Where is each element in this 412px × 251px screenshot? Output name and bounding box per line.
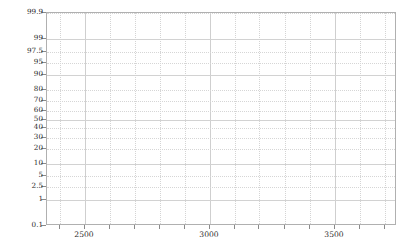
x-axis-tick bbox=[284, 225, 285, 229]
x-axis-tick bbox=[359, 225, 360, 229]
y-axis-tick-label: 40 bbox=[34, 123, 43, 131]
x-axis-tick bbox=[258, 225, 259, 229]
x-axis-tick bbox=[159, 225, 160, 229]
horizontal-gridline bbox=[47, 164, 395, 165]
y-axis-tick-label: 95 bbox=[34, 58, 43, 66]
probability-plot-figure: 99.99997.59590807060504030201052.510.1 2… bbox=[0, 0, 412, 251]
vertical-gridline bbox=[185, 13, 186, 224]
vertical-gridline bbox=[360, 13, 361, 224]
x-axis-tick bbox=[184, 225, 185, 229]
horizontal-gridline bbox=[47, 63, 395, 64]
vertical-gridline bbox=[310, 13, 311, 224]
vertical-gridline bbox=[235, 13, 236, 224]
vertical-gridline bbox=[60, 13, 61, 224]
x-axis-tick-label: 2500 bbox=[74, 230, 93, 239]
x-axis-tick bbox=[59, 225, 60, 229]
x-axis-tick-label: 3000 bbox=[199, 230, 218, 239]
y-axis-tick-label: 2.5 bbox=[32, 182, 43, 190]
horizontal-gridline bbox=[47, 138, 395, 139]
horizontal-gridline bbox=[47, 200, 395, 201]
horizontal-gridline bbox=[47, 52, 395, 53]
y-axis-tick-label: 80 bbox=[34, 85, 43, 93]
y-axis-tick-label: 90 bbox=[34, 70, 43, 78]
vertical-gridline bbox=[259, 13, 260, 224]
y-axis-tick-label: 0.1 bbox=[32, 221, 43, 229]
y-axis-tick-label: 99 bbox=[34, 34, 43, 42]
horizontal-gridline bbox=[47, 176, 395, 177]
x-axis-tick bbox=[334, 225, 335, 229]
horizontal-gridline bbox=[47, 13, 395, 14]
y-axis-tick-label: 1 bbox=[38, 195, 43, 203]
x-axis-tick bbox=[209, 225, 210, 229]
x-axis-tick bbox=[234, 225, 235, 229]
horizontal-gridline bbox=[47, 120, 395, 121]
vertical-gridline bbox=[110, 13, 111, 224]
x-axis-tick-label: 3500 bbox=[324, 230, 343, 239]
x-axis-tick bbox=[134, 225, 135, 229]
y-axis-tick-label: 5 bbox=[38, 171, 43, 179]
vertical-gridline bbox=[135, 13, 136, 224]
horizontal-gridline bbox=[47, 128, 395, 129]
horizontal-gridline bbox=[47, 39, 395, 40]
y-axis-tick-label: 60 bbox=[34, 106, 43, 114]
vertical-gridline bbox=[210, 13, 211, 224]
vertical-gridline bbox=[160, 13, 161, 224]
vertical-gridline bbox=[385, 13, 386, 224]
x-axis-tick bbox=[109, 225, 110, 229]
x-axis-tick bbox=[384, 225, 385, 229]
plot-area bbox=[46, 12, 396, 225]
y-axis-tick-label: 99.9 bbox=[27, 8, 43, 16]
horizontal-gridline bbox=[47, 111, 395, 112]
y-axis-tick-label: 30 bbox=[34, 133, 43, 141]
horizontal-gridline bbox=[47, 90, 395, 91]
x-axis-tick bbox=[309, 225, 310, 229]
y-axis-tick-label: 10 bbox=[34, 159, 43, 167]
vertical-gridline bbox=[335, 13, 336, 224]
y-axis-tick-label: 97.5 bbox=[27, 47, 43, 55]
horizontal-gridline bbox=[47, 75, 395, 76]
horizontal-gridline bbox=[47, 187, 395, 188]
y-axis-tick-label: 20 bbox=[34, 144, 43, 152]
vertical-gridline bbox=[85, 13, 86, 224]
y-axis-tick-label: 70 bbox=[34, 96, 43, 104]
horizontal-gridline bbox=[47, 149, 395, 150]
x-axis-tick bbox=[84, 225, 85, 229]
horizontal-gridline bbox=[47, 101, 395, 102]
vertical-gridline bbox=[285, 13, 286, 224]
